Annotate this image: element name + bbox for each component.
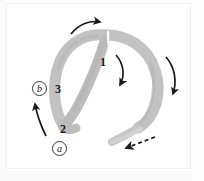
diagram-canvas xyxy=(0,0,204,181)
band-right-outer-arc xyxy=(104,35,158,128)
label-marker-b: b xyxy=(32,81,47,96)
arrow-up-left-icon xyxy=(35,104,46,136)
curved-arrow-down-icon xyxy=(116,55,123,85)
label-point-3: 3 xyxy=(55,83,61,95)
band-crossing-notch xyxy=(108,32,109,46)
diagram-figure: 1 2 3 a b xyxy=(0,0,204,181)
label-marker-a: a xyxy=(52,141,67,156)
curved-arrow-down-right-icon xyxy=(166,57,175,94)
dashed-arrow-down-left-icon xyxy=(126,137,155,148)
label-point-1: 1 xyxy=(100,56,106,68)
label-point-2: 2 xyxy=(60,123,66,135)
gray-loop-band-shape xyxy=(55,32,159,142)
